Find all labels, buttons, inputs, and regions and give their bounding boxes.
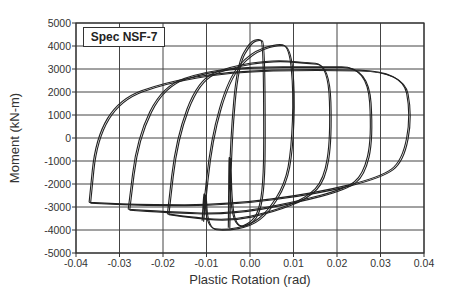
hysteresis-loop — [128, 67, 370, 213]
y-tick-label: -3000 — [44, 201, 71, 213]
x-tick-label: 0.04 — [414, 257, 435, 269]
y-tick-label: 0 — [65, 132, 71, 144]
y-axis-label: Moment (kN-m) — [7, 93, 22, 183]
x-tick-label: -0.02 — [151, 257, 175, 269]
y-tick-label: 2000 — [48, 86, 72, 98]
y-tick-label: 3000 — [48, 63, 72, 75]
specimen-legend: Spec NSF-7 — [83, 27, 165, 47]
y-tick-label: -2000 — [44, 178, 71, 190]
y-tick-label: 1000 — [48, 109, 72, 121]
y-tick-label: -4000 — [44, 224, 71, 236]
x-tick-label: -0.03 — [108, 257, 132, 269]
y-tick-label: -1000 — [44, 155, 71, 167]
x-tick-label: 0.02 — [327, 257, 348, 269]
x-axis-label: Plastic Rotation (rad) — [189, 272, 310, 287]
y-tick-label: -5000 — [44, 247, 71, 259]
x-tick-label: 0.00 — [240, 257, 261, 269]
y-tick-label: 5000 — [48, 17, 72, 29]
x-tick-label: 0.03 — [370, 257, 391, 269]
x-tick-label: 0.01 — [283, 257, 304, 269]
x-tick-label: -0.01 — [195, 257, 219, 269]
y-tick-label: 4000 — [48, 40, 72, 52]
hysteresis-chart: -0.04-0.03-0.02-0.010.000.010.020.030.04… — [0, 0, 454, 300]
axis-ticks: -0.04-0.03-0.02-0.010.000.010.020.030.04… — [44, 17, 434, 269]
